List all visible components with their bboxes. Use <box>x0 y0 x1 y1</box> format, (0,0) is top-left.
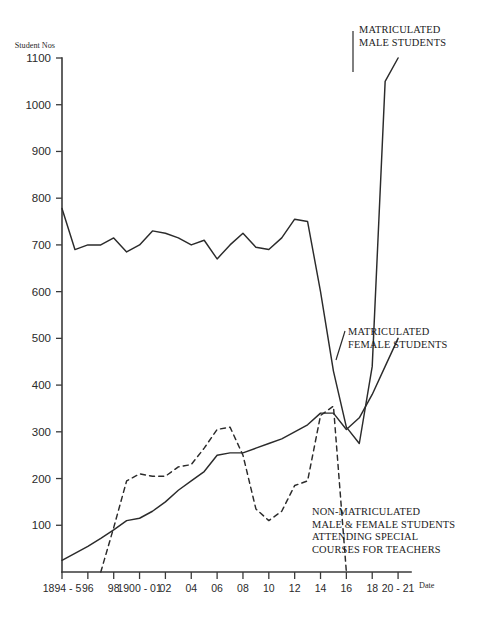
leader-line-female <box>336 331 345 360</box>
x-tick-label: 06 <box>211 582 223 594</box>
chart-container: 11001000900800700600500400300200100 1894… <box>0 0 481 619</box>
x-axis-ticks: 1894 - 596981900 - 010204060810121416182… <box>43 572 415 594</box>
x-tick-label: 96 <box>82 582 94 594</box>
annotation-leader-lines <box>336 31 353 360</box>
y-axis-caption: Student Nos <box>15 41 55 50</box>
y-tick-label: 800 <box>32 192 51 204</box>
data-series-group <box>62 58 398 572</box>
y-tick-label: 1000 <box>25 99 51 111</box>
x-tick-label: 12 <box>289 582 301 594</box>
x-tick-label: 10 <box>263 582 275 594</box>
y-tick-label: 200 <box>32 473 51 485</box>
x-tick-label: 20 - 21 <box>382 582 415 594</box>
y-tick-label: 1100 <box>26 52 51 64</box>
x-tick-label: 18 <box>366 582 378 594</box>
y-tick-label: 600 <box>32 286 51 298</box>
series-line-dashed <box>101 406 347 572</box>
x-tick-label: 02 <box>160 582 172 594</box>
y-tick-label: 400 <box>32 379 51 391</box>
y-tick-label: 100 <box>32 519 51 531</box>
x-tick-label: 08 <box>237 582 249 594</box>
y-axis-ticks: 11001000900800700600500400300200100 <box>25 52 62 531</box>
annotation-matriculated-male: MATRICULATED MALE STUDENTS <box>359 24 446 49</box>
y-tick-label: 500 <box>32 332 51 344</box>
y-tick-label: 300 <box>32 426 51 438</box>
y-tick-label: 900 <box>32 145 51 157</box>
x-axis-caption: Date <box>419 581 435 590</box>
x-tick-label: 16 <box>341 582 353 594</box>
x-tick-label: 04 <box>185 582 197 594</box>
annotation-non-matriculated: NON-MATRICULATED MALE & FEMALE STUDENTS … <box>312 506 455 556</box>
y-tick-label: 700 <box>32 239 51 251</box>
annotation-matriculated-female: MATRICULATED FEMALE STUDENTS <box>348 326 448 351</box>
x-tick-label: 14 <box>315 582 327 594</box>
x-tick-label: 1894 - 5 <box>43 582 82 594</box>
series-line-solid <box>62 58 398 444</box>
x-tick-label: 1900 - 01 <box>117 582 162 594</box>
